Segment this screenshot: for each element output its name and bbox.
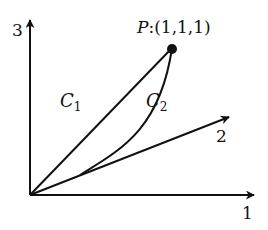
coordinate-diagram bbox=[0, 0, 268, 230]
axis-1-label: 1 bbox=[242, 205, 253, 222]
curve-c1-label: C1 bbox=[60, 92, 81, 113]
curve-c1-subscript: 1 bbox=[74, 100, 82, 114]
point-coordinates: (1,1,1) bbox=[154, 17, 211, 37]
curve-c2-name: C bbox=[146, 90, 160, 111]
curve-c1-name: C bbox=[60, 90, 74, 111]
curve-c2-subscript: 2 bbox=[160, 100, 168, 114]
point-p-dot bbox=[167, 44, 177, 54]
point-name: P bbox=[137, 17, 148, 37]
axis-3-label: 3 bbox=[12, 22, 23, 39]
curve-c2-label: C2 bbox=[146, 92, 167, 113]
axis-2-label: 2 bbox=[216, 128, 227, 145]
point-p-label: P:(1,1,1) bbox=[137, 19, 211, 36]
curve-c1 bbox=[30, 48, 172, 195]
axis-2-line bbox=[30, 117, 229, 195]
